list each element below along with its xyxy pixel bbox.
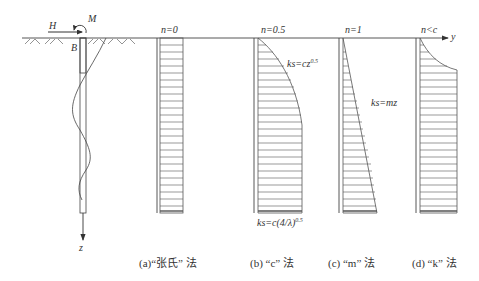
formula-base: ks=cz — [287, 58, 310, 69]
caption-name: “c” — [266, 257, 281, 269]
deflection-curve — [73, 38, 107, 200]
panel-b-formula-top: ks=cz0.5 — [287, 58, 318, 69]
panel-d-n-label: n<c — [421, 25, 437, 35]
caption-prefix: (b) — [250, 257, 263, 269]
caption-name: “k” — [428, 257, 443, 269]
caption-prefix: (c) — [328, 257, 340, 269]
panel-a-diagram — [157, 38, 183, 213]
caption-prefix: (a) — [139, 257, 151, 269]
caption-suffix: 法 — [446, 257, 457, 269]
caption-prefix: (d) — [412, 257, 425, 269]
panel-b-n-label: n=0.5 — [261, 25, 285, 35]
panel-b-formula-bottom: ks=c(4/λ)0.5 — [257, 217, 303, 228]
y-axis-label: y — [451, 32, 455, 42]
caption-suffix: 法 — [364, 257, 375, 269]
panel-a-n-label: n=0 — [161, 25, 178, 35]
panel-c-n-label: n=1 — [345, 25, 362, 35]
formula-base: ks=c(4/λ) — [257, 217, 295, 228]
z-axis-label: z — [79, 243, 83, 253]
panel-a-caption: (a)“张氏” 法 — [139, 258, 197, 269]
caption-name: “m” — [343, 257, 361, 269]
panel-d-caption: (d) “k” 法 — [412, 258, 457, 269]
b-width-label: B — [71, 43, 77, 53]
formula-exponent: 0.5 — [310, 58, 318, 64]
panel-d-diagram — [416, 38, 457, 213]
panel-c-formula: ks=mz — [371, 98, 397, 108]
m-moment-label: M — [88, 14, 96, 24]
panel-c-caption: (c) “m” 法 — [328, 258, 375, 269]
panel-c-diagram — [339, 38, 377, 213]
panel-b-caption: (b) “c” 法 — [250, 258, 294, 269]
caption-suffix: 法 — [186, 257, 197, 269]
caption-name: “张氏” — [151, 257, 183, 269]
h-load-label: H — [49, 21, 56, 31]
formula-exponent: 0.5 — [295, 217, 303, 223]
caption-suffix: 法 — [283, 257, 294, 269]
